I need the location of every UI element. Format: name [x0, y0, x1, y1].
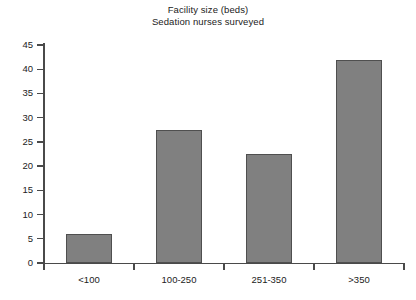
y-axis-tick [37, 262, 43, 263]
y-axis-label: 35 [0, 88, 33, 98]
y-axis-label: 40 [0, 64, 33, 74]
bar [336, 60, 382, 263]
y-axis-tick [37, 165, 43, 166]
chart-title-line-1: Facility size (beds) [0, 4, 416, 16]
x-axis-tick [403, 263, 404, 270]
bar [66, 234, 112, 263]
plot-area [44, 45, 404, 263]
x-axis-tick [223, 263, 224, 270]
x-axis-label: >350 [314, 275, 404, 285]
x-axis-tick [133, 263, 134, 270]
y-axis-tick [37, 93, 43, 94]
y-axis-tick [37, 238, 43, 239]
y-axis-label: 10 [0, 210, 33, 220]
y-axis-tick [37, 141, 43, 142]
y-axis-label: 45 [0, 40, 33, 50]
y-axis-label: 20 [0, 161, 33, 171]
bar-chart: Facility size (beds) Sedation nurses sur… [0, 0, 416, 300]
y-axis-label: 30 [0, 113, 33, 123]
y-axis-tick [37, 69, 43, 70]
bar [246, 154, 292, 263]
chart-title-line-2: Sedation nurses surveyed [0, 16, 416, 28]
y-axis-label: 0 [0, 258, 33, 268]
y-axis-tick [37, 190, 43, 191]
y-axis-tick [37, 117, 43, 118]
y-axis-label: 15 [0, 185, 33, 195]
bar [156, 130, 202, 263]
x-axis-label: 100-250 [134, 275, 224, 285]
y-axis-label: 5 [0, 234, 33, 244]
x-axis-tick [313, 263, 314, 270]
x-axis-label: <100 [44, 275, 134, 285]
chart-title: Facility size (beds) Sedation nurses sur… [0, 4, 416, 28]
y-axis-tick [37, 44, 43, 45]
x-axis-tick [43, 263, 44, 270]
x-axis-label: 251-350 [224, 275, 314, 285]
y-axis-label: 25 [0, 137, 33, 147]
y-axis-tick [37, 214, 43, 215]
